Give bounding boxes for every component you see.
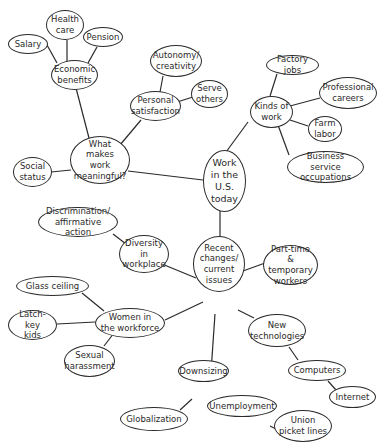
node-discrimination-affirmative-action: Discrimination/ affirmative action xyxy=(38,207,118,237)
node-new-technologies: New technologies xyxy=(248,314,306,347)
node-serve-others: Serve others xyxy=(191,80,228,108)
node-business-service-occupations: Business service occupations xyxy=(287,151,364,183)
node-personal-satisfaction: Personal satisfaction xyxy=(130,91,181,121)
node-kinds-of-work: Kinds of work xyxy=(250,96,293,128)
node-latch-key-kids: Latch-key kids xyxy=(8,310,57,340)
node-downsizing: Downsizing xyxy=(178,360,229,382)
node-globalization: Globalization xyxy=(120,407,188,431)
node-unemployment: Unemployment xyxy=(207,395,277,417)
node-work-in-us-today: Work in the U.S. today xyxy=(203,150,246,212)
node-health-care: Health care xyxy=(46,10,84,40)
node-farm-labor: Farm labor xyxy=(308,116,342,142)
node-computers: Computers xyxy=(288,360,346,381)
node-diversity-in-workplace: Diversity in workplace xyxy=(119,235,169,273)
node-recent-changes-current-issues: Recent changes/ current issues xyxy=(193,236,245,292)
node-pension: Pension xyxy=(83,27,123,47)
node-professional-careers: Professional careers xyxy=(319,77,377,109)
node-sexual-harassment: Sexual harassment xyxy=(64,345,115,377)
node-women-in-workforce: Women in the workforce xyxy=(95,308,165,338)
node-part-time-temporary-workers: Part-time & temporary workers xyxy=(263,245,318,285)
node-salary: Salary xyxy=(8,34,48,54)
node-internet: Internet xyxy=(329,386,376,408)
node-social-status: Social status xyxy=(13,157,52,187)
node-glass-ceiling: Glass ceiling xyxy=(16,276,89,296)
node-autonomy-creativity: Autonomy/ creativity xyxy=(150,45,202,77)
node-economic-benefits: Economic benefits xyxy=(51,60,98,90)
node-union-picket-lines: Union picket lines xyxy=(274,410,332,442)
node-factory-jobs: Factory jobs xyxy=(266,55,319,75)
node-what-makes-work-meaningful: What makes work meaningful? xyxy=(70,136,130,184)
